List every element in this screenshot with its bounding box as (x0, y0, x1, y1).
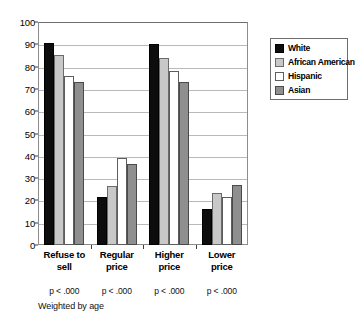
y-axis-tick-label: 70 (25, 83, 35, 94)
category-labels: Refuse tosellRegularpriceHigherpriceLowe… (38, 249, 248, 283)
p-value-label: p < .000 (143, 286, 196, 296)
category-label: Lowerprice (196, 249, 249, 272)
category-label-line: price (196, 261, 249, 273)
p-value-labels: p < .000p < .000p < .000p < .000 (38, 286, 248, 300)
y-axis-tick-label: 100 (20, 17, 35, 28)
y-axis-tick-label: 20 (25, 195, 35, 206)
category-label-line: price (91, 261, 144, 273)
bar (97, 197, 107, 245)
legend-item: Hispanic (275, 71, 344, 81)
bar (159, 58, 169, 245)
bar (149, 44, 159, 245)
category-label: Refuse tosell (38, 249, 91, 272)
bar (222, 197, 232, 245)
footnote: Weighted by age (38, 301, 104, 311)
legend-item: Asian (275, 85, 344, 95)
bar (212, 193, 222, 245)
p-value-label: p < .000 (91, 286, 144, 296)
bar (127, 164, 137, 245)
bar (64, 76, 74, 245)
p-value-label: p < .000 (38, 286, 91, 296)
category-label-line: Higher (143, 249, 196, 261)
p-value-label: p < .000 (196, 286, 249, 296)
y-axis-tick-label: 90 (25, 39, 35, 50)
y-axis: 0102030405060708090100 (0, 22, 38, 246)
bar-group (196, 22, 249, 245)
y-axis-tick-label: 50 (25, 128, 35, 139)
bar (107, 186, 117, 245)
bar-groups (38, 22, 248, 245)
y-axis-tick-label: 30 (25, 173, 35, 184)
bar-group (143, 22, 196, 245)
legend-label: White (288, 43, 310, 53)
bar (44, 43, 54, 245)
legend-swatch-icon (275, 86, 284, 95)
legend-swatch-icon (275, 72, 284, 81)
legend-item: African American (275, 57, 344, 67)
legend-item: White (275, 43, 344, 53)
y-axis-tick-label: 80 (25, 61, 35, 72)
y-axis-tick-label: 10 (25, 217, 35, 228)
category-label-line: Lower (196, 249, 249, 261)
bar (117, 158, 127, 245)
legend-label: Asian (288, 85, 310, 95)
category-label-line: Regular (91, 249, 144, 261)
bar (202, 209, 212, 245)
legend-label: Hispanic (288, 71, 322, 81)
y-axis-tick-label: 60 (25, 106, 35, 117)
bar-group (38, 22, 91, 245)
category-label-line: price (143, 261, 196, 273)
legend-swatch-icon (275, 58, 284, 67)
legend: WhiteAfrican AmericanHispanicAsian (270, 38, 348, 100)
y-axis-tick-label: 40 (25, 150, 35, 161)
category-label-line: sell (38, 261, 91, 273)
bar-group (91, 22, 144, 245)
bar (179, 82, 189, 245)
legend-label: African American (288, 57, 355, 67)
legend-swatch-icon (275, 44, 284, 53)
bar (169, 71, 179, 245)
category-label: Regularprice (91, 249, 144, 272)
bar (74, 82, 84, 245)
bar (54, 55, 64, 245)
category-label-line: Refuse to (38, 249, 91, 261)
category-label: Higherprice (143, 249, 196, 272)
bar (232, 185, 242, 245)
